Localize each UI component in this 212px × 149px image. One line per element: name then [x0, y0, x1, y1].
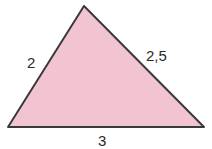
triangle-shape [8, 6, 204, 127]
right-side-label: 2,5 [146, 47, 167, 64]
triangle-diagram: 2 2,5 3 [0, 0, 212, 149]
left-side-label: 2 [27, 54, 35, 71]
bottom-side-label: 3 [98, 132, 106, 149]
